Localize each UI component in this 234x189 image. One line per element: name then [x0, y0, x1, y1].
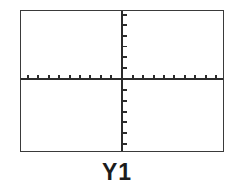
graph-figure: Y1 — [0, 0, 234, 189]
plot-area — [21, 11, 223, 151]
coordinate-axes-svg — [21, 11, 223, 151]
graph-label: Y1 — [0, 158, 234, 186]
calculator-screen-frame — [20, 10, 224, 152]
